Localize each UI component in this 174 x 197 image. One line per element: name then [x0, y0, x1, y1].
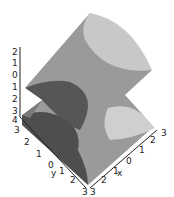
z-tick: 2 — [12, 94, 18, 104]
y-tick: 2 — [24, 137, 30, 147]
x-tick: 3 — [90, 187, 96, 197]
x-tick: 0 — [126, 156, 132, 166]
y-tick: 1 — [59, 166, 65, 176]
x-tick: 2 — [101, 175, 107, 185]
x-axis-label: x — [117, 168, 123, 178]
z-tick: 1 — [12, 82, 18, 92]
y-tick: 3 — [14, 125, 20, 135]
z-tick: 0 — [12, 70, 18, 80]
z-axis-ticks: 2 1 0 1 2 3 4 — [12, 47, 18, 125]
y-axis-label: y — [51, 168, 57, 178]
x-tick: 1 — [139, 145, 145, 155]
z-tick: 1 — [12, 58, 18, 68]
x-tick: 3 — [161, 128, 167, 138]
z-tick: 2 — [12, 47, 18, 57]
y-tick: 1 — [36, 149, 42, 159]
z-tick: 4 — [12, 115, 18, 125]
x-tick: 2 — [150, 135, 156, 145]
y-tick: 2 — [70, 175, 76, 185]
surface — [20, 13, 174, 185]
surface-plot-3d: 2 1 0 1 2 3 4 3 2 1 0 1 2 3 y 3 2 1 0 1 … — [0, 0, 174, 197]
y-tick: 3 — [82, 187, 88, 197]
